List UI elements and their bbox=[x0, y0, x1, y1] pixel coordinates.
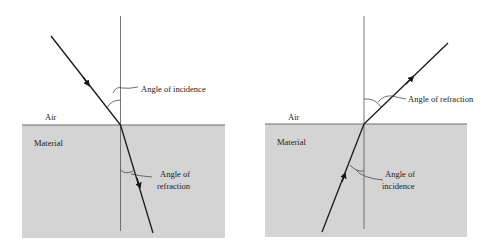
label-air: Air bbox=[45, 112, 57, 122]
label-refraction: refraction bbox=[157, 181, 191, 191]
pointer-line bbox=[113, 87, 138, 93]
label-air: Air bbox=[288, 112, 300, 122]
label-angle-of-incidence: Angle of incidence bbox=[141, 84, 206, 94]
arrow-icon bbox=[406, 78, 412, 84]
label-material: Material bbox=[277, 137, 306, 147]
label-angle-of: Angle of bbox=[160, 169, 190, 179]
label-incidence: incidence bbox=[382, 181, 415, 191]
diagram-air-to-material: Angle of incidence Air Material Angle of… bbox=[22, 16, 225, 238]
label-angle-of: Angle of bbox=[385, 169, 415, 179]
refraction-angle-arc bbox=[364, 99, 381, 107]
arrow-icon bbox=[83, 77, 88, 84]
refraction-diagrams: Angle of incidence Air Material Angle of… bbox=[0, 0, 495, 252]
diagram-material-to-air: Angle of refraction Air Material Angle o… bbox=[265, 16, 474, 237]
label-material: Material bbox=[34, 138, 63, 148]
label-angle-of-refraction: Angle of refraction bbox=[408, 94, 474, 104]
incidence-angle-arc bbox=[107, 100, 121, 108]
